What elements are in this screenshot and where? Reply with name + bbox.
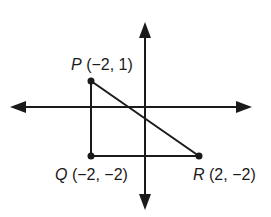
label-r-name: R — [193, 166, 205, 183]
label-q: Q (−2, −2) — [55, 167, 128, 183]
y-axis-down-arrow-icon — [139, 194, 151, 210]
label-p-coords: (−2, 1) — [86, 56, 133, 73]
point-r — [196, 153, 203, 160]
y-axis-up-arrow-icon — [139, 22, 151, 38]
x-axis-right-arrow-icon — [236, 101, 252, 113]
label-r-coords: (2, −2) — [209, 166, 256, 183]
coordinate-plane — [0, 0, 271, 217]
label-r: R (2, −2) — [193, 167, 256, 183]
label-p-name: P — [71, 56, 82, 73]
label-p: P (−2, 1) — [71, 57, 133, 73]
point-p — [88, 78, 95, 85]
x-axis-left-arrow-icon — [10, 101, 26, 113]
label-q-name: Q — [55, 166, 67, 183]
label-q-coords: (−2, −2) — [72, 166, 128, 183]
point-q — [88, 153, 95, 160]
